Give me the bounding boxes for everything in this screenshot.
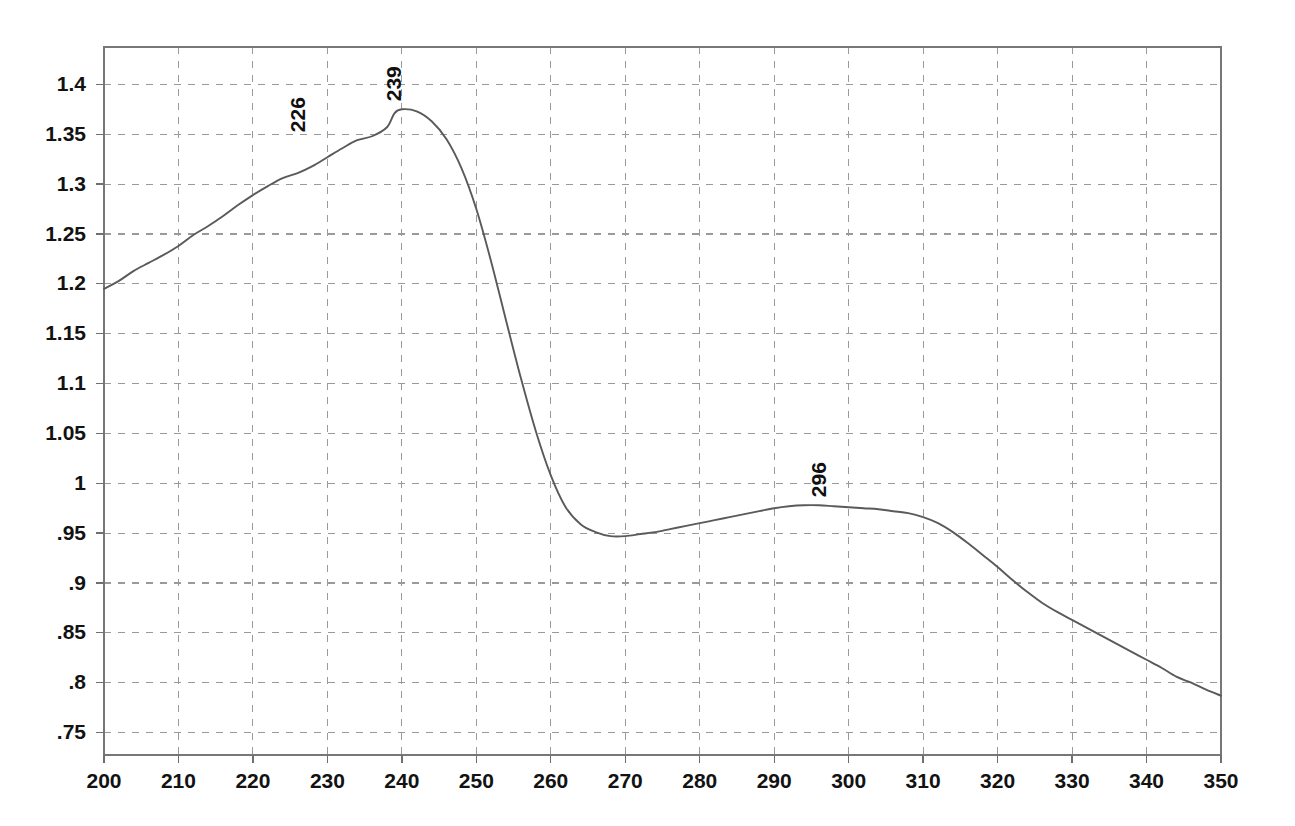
x-axis-tick-label: 320 xyxy=(980,769,1015,792)
x-axis-tick-label: 330 xyxy=(1055,769,1090,792)
y-axis-tick-label: 1.35 xyxy=(45,122,86,145)
peak-annotation-label: 296 xyxy=(807,462,830,497)
y-axis-tick-label: 1.1 xyxy=(57,371,87,394)
y-axis-tick-label: 1 xyxy=(74,471,86,494)
y-axis-tick-label: .8 xyxy=(68,670,86,693)
y-axis-tick-label: 1.05 xyxy=(45,421,86,444)
y-axis-tick-label: 1.4 xyxy=(57,72,87,95)
uv-vis-spectrum-chart: .75.8.85.9.9511.051.11.151.21.251.31.351… xyxy=(0,0,1295,826)
x-axis-tick-label: 250 xyxy=(459,769,494,792)
y-axis-tick-label: 1.25 xyxy=(45,222,86,245)
chart-background xyxy=(0,0,1295,826)
x-axis-tick-label: 350 xyxy=(1203,769,1238,792)
x-axis-tick-label: 300 xyxy=(831,769,866,792)
x-axis-tick-label: 220 xyxy=(235,769,270,792)
peak-annotation: 296 xyxy=(807,462,830,497)
y-axis-tick-label: 1.2 xyxy=(57,271,86,294)
x-axis-tick-label: 240 xyxy=(384,769,419,792)
y-axis-tick-label: .75 xyxy=(57,720,87,743)
y-axis-tick-label: 1.3 xyxy=(57,172,86,195)
x-axis-tick-label: 310 xyxy=(906,769,941,792)
x-axis-tick-label: 270 xyxy=(608,769,643,792)
peak-annotation: 226 xyxy=(286,97,309,132)
x-axis-tick-label: 230 xyxy=(310,769,345,792)
peak-annotation-label: 226 xyxy=(286,97,309,132)
peak-annotation-label: 239 xyxy=(382,66,405,101)
y-axis-tick-label: .85 xyxy=(57,620,87,643)
x-axis-tick-label: 290 xyxy=(757,769,792,792)
x-axis-tick-label: 260 xyxy=(533,769,568,792)
x-axis-tick-label: 340 xyxy=(1129,769,1164,792)
x-axis-tick-label: 210 xyxy=(161,769,196,792)
spectrum-plot-svg: .75.8.85.9.9511.051.11.151.21.251.31.351… xyxy=(0,0,1295,826)
x-axis-tick-label: 280 xyxy=(682,769,717,792)
peak-annotation: 239 xyxy=(382,66,405,101)
y-axis-tick-label: .9 xyxy=(68,571,86,594)
x-axis-tick-label: 200 xyxy=(86,769,121,792)
y-axis-tick-label: .95 xyxy=(57,521,87,544)
y-axis-tick-label: 1.15 xyxy=(45,321,86,344)
